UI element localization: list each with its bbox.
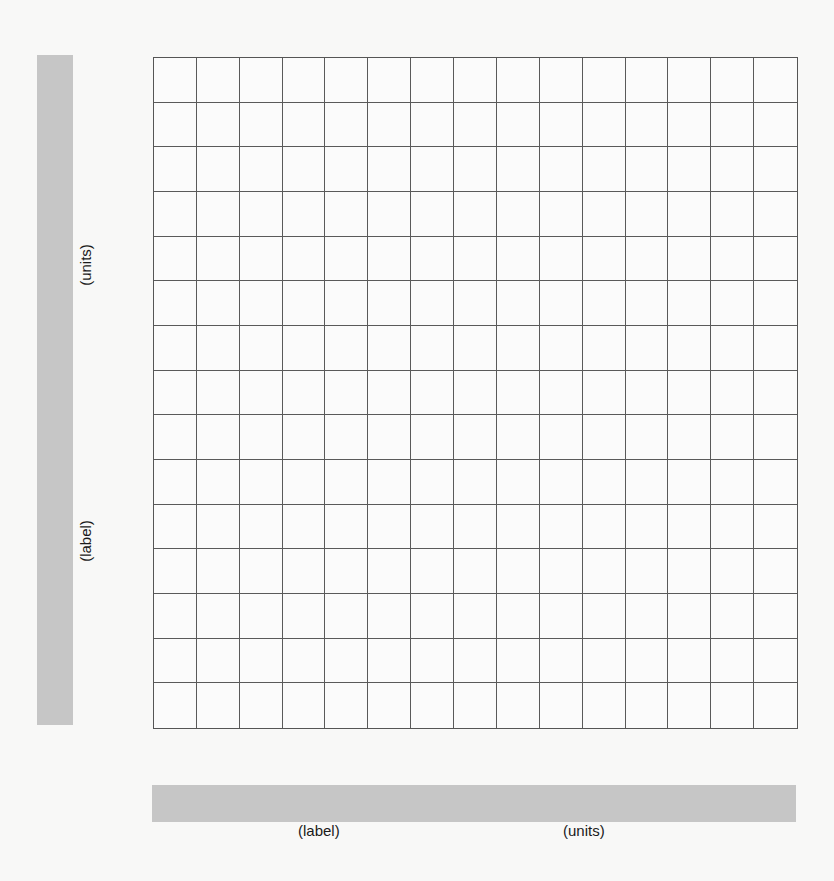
grid-cell bbox=[283, 58, 326, 103]
grid-cell bbox=[583, 415, 626, 460]
grid-cell bbox=[197, 281, 240, 326]
grid-cell bbox=[626, 237, 669, 282]
grid-cell bbox=[411, 237, 454, 282]
grid-cell bbox=[154, 415, 197, 460]
grid-cell bbox=[583, 371, 626, 416]
grid-cell bbox=[497, 147, 540, 192]
grid-cell bbox=[197, 683, 240, 728]
grid-cell bbox=[240, 192, 283, 237]
grid-cell bbox=[368, 281, 411, 326]
grid-cell bbox=[154, 58, 197, 103]
grid-cell bbox=[154, 147, 197, 192]
grid-cell bbox=[454, 594, 497, 639]
grid-cell bbox=[197, 505, 240, 550]
grid-cell bbox=[668, 594, 711, 639]
grid-cell bbox=[368, 371, 411, 416]
grid-cell bbox=[240, 549, 283, 594]
grid-cell bbox=[754, 549, 797, 594]
grid-cell bbox=[283, 549, 326, 594]
grid-cell bbox=[454, 415, 497, 460]
grid-cell bbox=[497, 326, 540, 371]
grid-cell bbox=[754, 415, 797, 460]
grid-cell bbox=[154, 326, 197, 371]
grid-cell bbox=[368, 415, 411, 460]
grid-cell bbox=[583, 460, 626, 505]
grid-cell bbox=[540, 103, 583, 148]
grid-cell bbox=[325, 192, 368, 237]
grid-cell bbox=[540, 460, 583, 505]
grid-cell bbox=[668, 460, 711, 505]
grid-cell bbox=[325, 281, 368, 326]
grid-cell bbox=[497, 460, 540, 505]
grid-cell bbox=[154, 281, 197, 326]
grid-cell bbox=[325, 549, 368, 594]
grid-cell bbox=[154, 549, 197, 594]
x-axis-label-bar bbox=[152, 785, 796, 822]
grid-cell bbox=[626, 58, 669, 103]
grid-cell bbox=[368, 326, 411, 371]
grid-cell bbox=[540, 326, 583, 371]
grid-cell bbox=[325, 147, 368, 192]
grid-cell bbox=[240, 683, 283, 728]
grid-cell bbox=[154, 103, 197, 148]
grid-cell bbox=[283, 505, 326, 550]
grid-cell bbox=[754, 192, 797, 237]
grid-cell bbox=[540, 683, 583, 728]
grid-cell bbox=[711, 460, 754, 505]
grid-cell bbox=[668, 58, 711, 103]
grid-cell bbox=[711, 192, 754, 237]
grid-cell bbox=[711, 281, 754, 326]
grid-cell bbox=[325, 460, 368, 505]
grid-cell bbox=[497, 639, 540, 684]
grid-cell bbox=[325, 237, 368, 282]
grid-cell bbox=[454, 326, 497, 371]
grid-cell bbox=[668, 147, 711, 192]
grid-cell bbox=[154, 505, 197, 550]
grid-cell bbox=[626, 460, 669, 505]
grid-cell bbox=[711, 505, 754, 550]
grid-cell bbox=[368, 549, 411, 594]
grid-cell bbox=[583, 103, 626, 148]
grid-cell bbox=[240, 147, 283, 192]
grid-cell bbox=[668, 326, 711, 371]
grid-cell bbox=[240, 639, 283, 684]
grid-cell bbox=[711, 326, 754, 371]
grid-cell bbox=[668, 549, 711, 594]
grid-cell bbox=[368, 639, 411, 684]
grid-cell bbox=[454, 58, 497, 103]
grid-cell bbox=[154, 683, 197, 728]
grid-cell bbox=[240, 58, 283, 103]
y-axis-label-bar bbox=[37, 55, 73, 725]
grid-cell bbox=[411, 326, 454, 371]
grid-cell bbox=[368, 58, 411, 103]
grid-cell bbox=[626, 147, 669, 192]
grid-cell bbox=[325, 639, 368, 684]
grid-cell bbox=[283, 639, 326, 684]
grid-cell bbox=[240, 237, 283, 282]
grid-cell bbox=[454, 549, 497, 594]
grid-cell bbox=[411, 103, 454, 148]
grid-cell bbox=[411, 639, 454, 684]
grid-cell bbox=[454, 192, 497, 237]
grid-cell bbox=[325, 415, 368, 460]
grid-cell bbox=[454, 683, 497, 728]
grid-cell bbox=[197, 594, 240, 639]
grid-cell bbox=[197, 371, 240, 416]
grid-cell bbox=[283, 237, 326, 282]
grid-cell bbox=[626, 371, 669, 416]
grid-cell bbox=[711, 147, 754, 192]
grid-cell bbox=[754, 505, 797, 550]
grid-cell bbox=[626, 639, 669, 684]
grid-cell bbox=[754, 683, 797, 728]
grid-cell bbox=[540, 58, 583, 103]
grid-cell bbox=[540, 415, 583, 460]
grid-cell bbox=[411, 192, 454, 237]
grid-cell bbox=[626, 683, 669, 728]
grid-cell bbox=[754, 371, 797, 416]
grid-cell bbox=[540, 639, 583, 684]
grid-cell bbox=[754, 147, 797, 192]
grid-cell bbox=[626, 192, 669, 237]
grid-cell bbox=[197, 639, 240, 684]
grid-cell bbox=[411, 683, 454, 728]
grid-cell bbox=[668, 281, 711, 326]
